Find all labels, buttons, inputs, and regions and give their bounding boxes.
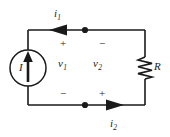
polarity-bottom-right: + xyxy=(99,88,105,99)
label-source-current: I xyxy=(19,62,23,73)
circuit-diagram-figure: i1 i2 v1 v2 I R + − − + xyxy=(0,0,170,137)
label-voltage-v1-subscript: 1 xyxy=(63,63,67,72)
resistor-zigzag xyxy=(138,57,152,79)
label-voltage-v2: v2 xyxy=(93,58,102,69)
polarity-top-right: − xyxy=(99,38,105,49)
i2-arrow-icon xyxy=(106,100,124,111)
node-dot-top xyxy=(82,27,88,33)
label-current-i1: i1 xyxy=(54,8,61,19)
circuit-schematic-svg xyxy=(0,0,170,137)
label-current-i2: i2 xyxy=(110,118,117,129)
label-current-i2-subscript: 2 xyxy=(113,123,117,132)
polarity-bottom-left: − xyxy=(60,88,66,99)
label-current-i1-subscript: 1 xyxy=(57,13,61,22)
label-resistor: R xyxy=(154,61,161,72)
i1-arrow-icon xyxy=(49,25,67,36)
label-voltage-v2-subscript: 2 xyxy=(98,63,102,72)
polarity-top-left: + xyxy=(60,38,66,49)
node-dot-bottom xyxy=(82,102,88,108)
label-voltage-v1: v1 xyxy=(58,58,67,69)
